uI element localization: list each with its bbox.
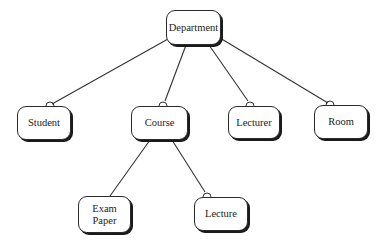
node-department: Department bbox=[166, 10, 221, 45]
node-exam-paper: Exam Paper bbox=[78, 196, 131, 233]
edge-department-course bbox=[165, 45, 186, 101]
node-course: Course bbox=[131, 106, 188, 140]
edge-department-room bbox=[220, 38, 328, 103]
node-student: Student bbox=[17, 106, 71, 140]
node-room: Room bbox=[314, 105, 368, 139]
edge-department-student bbox=[52, 39, 168, 104]
hierarchy-diagram: Department Student Course Lecturer Room … bbox=[0, 0, 384, 240]
node-lecturer: Lecturer bbox=[228, 106, 280, 139]
edge-course-lecture bbox=[172, 140, 205, 192]
node-lecture: Lecture bbox=[194, 197, 248, 231]
edge-course-exam_paper bbox=[110, 140, 150, 196]
edge-department-lecturer bbox=[209, 45, 248, 101]
